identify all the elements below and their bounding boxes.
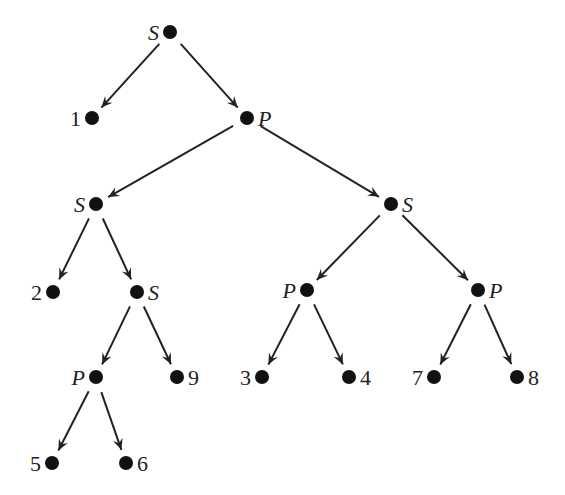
arrow-edge-n4-n8	[402, 215, 468, 280]
arrow-edge-n9-n16	[101, 392, 121, 450]
node-label: 9	[188, 365, 199, 390]
node-label: 4	[360, 365, 371, 390]
node-label: 7	[412, 365, 423, 390]
arrow-edge-n7-n12	[314, 304, 343, 364]
arrow-edge-n2-n3	[108, 126, 233, 197]
arrow-edge-n3-n6	[103, 219, 131, 280]
node-dot	[240, 111, 254, 125]
leaf-node-n11: 3	[240, 365, 269, 390]
node-label: S	[148, 20, 159, 45]
internal-node-n2: P	[240, 106, 271, 131]
node-label: P	[257, 106, 271, 131]
edge-layer	[58, 44, 511, 451]
node-label: S	[148, 280, 159, 305]
arrow-edge-n9-n15	[58, 391, 88, 450]
leaf-node-n13: 7	[412, 365, 441, 390]
node-dot	[427, 370, 441, 384]
leaf-node-n14: 8	[510, 365, 539, 390]
node-label: 3	[240, 365, 251, 390]
node-dot	[255, 370, 269, 384]
node-label: 2	[31, 280, 42, 305]
node-label: S	[402, 192, 413, 217]
leaf-node-n1: 1	[70, 106, 99, 131]
leaf-node-n15: 5	[30, 451, 59, 476]
node-dot	[170, 370, 184, 384]
node-dot	[85, 111, 99, 125]
arrow-edge-n0-n1	[101, 44, 159, 108]
node-dot	[384, 197, 398, 211]
leaf-node-n10: 9	[170, 365, 199, 390]
node-label: 6	[137, 451, 148, 476]
arrow-edge-n0-n2	[181, 44, 238, 108]
node-dot	[45, 456, 59, 470]
arrow-edge-n6-n10	[144, 307, 171, 365]
node-label: P	[282, 278, 296, 303]
node-dot	[89, 370, 103, 384]
internal-node-n4: S	[384, 192, 413, 217]
node-dot	[46, 285, 60, 299]
arrow-edge-n7-n11	[268, 304, 299, 364]
arrow-edge-n8-n13	[440, 304, 471, 364]
node-dot	[119, 456, 133, 470]
series-parallel-tree: S1PSS2SPPP9347856	[0, 0, 565, 495]
arrow-edge-n4-n7	[317, 215, 380, 280]
internal-node-n7: P	[282, 278, 314, 303]
arrow-edge-n3-n5	[59, 218, 89, 279]
node-dot	[89, 197, 103, 211]
arrow-edge-n2-n4	[261, 126, 379, 197]
arrow-edge-n8-n14	[485, 305, 512, 365]
node-label: 5	[30, 451, 41, 476]
leaf-node-n5: 2	[31, 280, 60, 305]
internal-node-n9: P	[71, 365, 103, 390]
node-dot	[510, 370, 524, 384]
node-dot	[130, 285, 144, 299]
leaf-node-n12: 4	[342, 365, 371, 390]
node-dot	[471, 283, 485, 297]
node-dot	[163, 25, 177, 39]
internal-node-n8: P	[471, 278, 502, 303]
leaf-node-n16: 6	[119, 451, 148, 476]
node-dot	[342, 370, 356, 384]
node-dot	[300, 283, 314, 297]
internal-node-n0: S	[148, 20, 177, 45]
node-label: 8	[528, 365, 539, 390]
internal-node-n6: S	[130, 280, 159, 305]
node-label: P	[488, 278, 502, 303]
arrow-edge-n6-n9	[102, 306, 130, 364]
node-label: P	[71, 365, 85, 390]
node-label: 1	[70, 106, 81, 131]
node-label: S	[74, 192, 85, 217]
internal-node-n3: S	[74, 192, 103, 217]
